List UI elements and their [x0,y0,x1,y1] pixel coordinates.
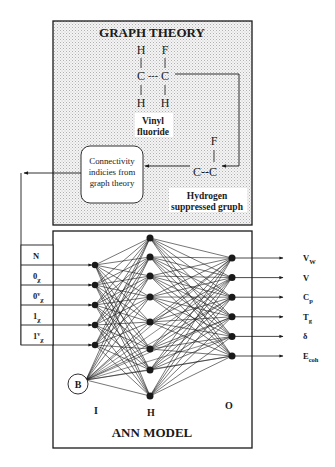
atom-c-left: C [137,69,145,83]
bias-label: B [75,379,82,390]
double-bond: --- [148,70,158,81]
output-node [229,274,236,281]
output-property-label: Tg [303,312,313,324]
hidden-node [147,319,154,326]
graph-theory-ann-diagram: GRAPH THEORY H F C --- C H H Vinyl fluor… [0,0,335,467]
output-property-label: Cp [303,292,313,304]
input-descriptor-label: N [33,251,40,261]
output-node [229,294,236,301]
suppressed-atom-f: F [211,134,218,148]
hidden-node [147,254,154,261]
fluoride-label: fluoride [137,127,169,137]
output-layer-label: O [225,400,233,411]
input-layer-label: I [94,405,98,416]
connectivity-line1: Connectivity [89,156,135,166]
atom-h-bottom-right: H [161,96,170,110]
connectivity-line2: indicies from [89,167,136,177]
output-property-label: Ecoh [303,351,319,363]
output-property-label: VW [303,253,316,265]
hidden-layer-label: H [147,407,155,418]
graph-theory-title: GRAPH THEORY [99,25,205,40]
hydrogen-label: Hydrogen [187,191,228,201]
output-node [229,255,236,262]
hidden-node [147,235,154,242]
hidden-node [147,346,154,353]
output-node [229,353,236,360]
atom-h-top-left: H [137,43,146,57]
hidden-node [147,393,154,400]
vinyl-label: Vinyl [142,116,164,126]
output-property-label: δ [303,331,308,341]
output-property-label: V [303,273,310,283]
ann-model-panel: B I H O ANN MODEL [53,231,252,448]
hidden-node [147,294,154,301]
atom-f-top-right: F [162,43,169,57]
hidden-node [147,273,154,280]
graph-theory-panel: GRAPH THEORY H F C --- C H H Vinyl fluor… [53,21,252,225]
atom-c-right: C [161,69,169,83]
atom-h-bottom-left: H [137,96,146,110]
input-node [92,322,98,328]
connectivity-line3: graph theory [90,178,135,188]
output-node [229,333,236,340]
input-node [92,302,98,308]
ann-model-title: ANN MODEL [112,425,193,440]
suppressed-graph-label: suppressed gruph [171,202,244,212]
output-node [229,313,236,320]
input-node [92,282,98,288]
input-node [92,342,98,348]
suppressed-bond: C--C [193,165,217,179]
hidden-node [147,367,154,374]
input-node [92,262,98,268]
